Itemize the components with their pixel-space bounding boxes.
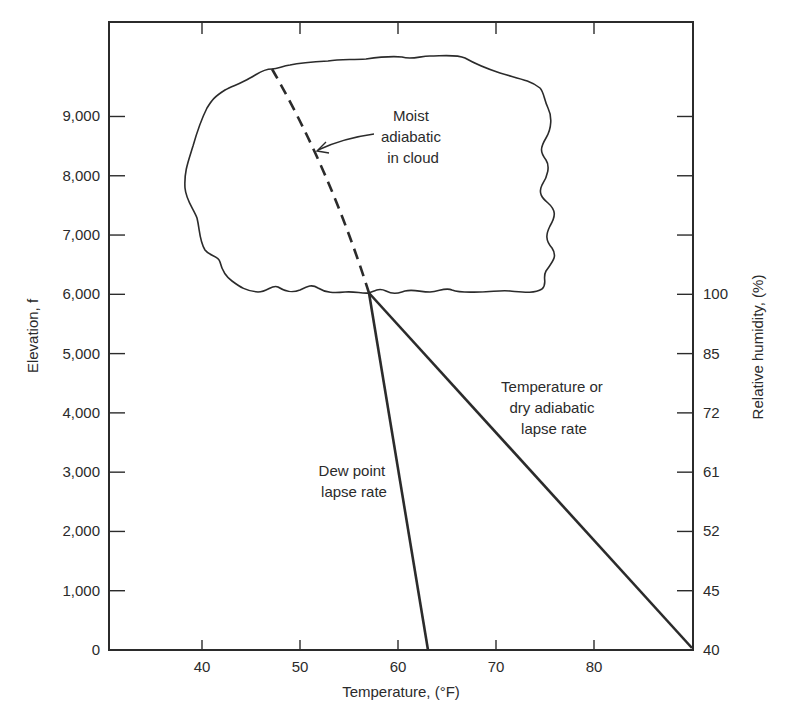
y2-tick-label: 61 — [703, 463, 720, 480]
y-tick-label: 0 — [92, 641, 100, 658]
lapse-rate-chart: 4050607080 01,0002,0003,0004,0005,0006,0… — [0, 0, 788, 725]
y-tick-label: 8,000 — [62, 167, 100, 184]
y-tick-label: 9,000 — [62, 107, 100, 124]
y-tick-label: 2,000 — [62, 522, 100, 539]
x-tick-label: 50 — [292, 658, 309, 675]
y-tick-label: 6,000 — [62, 285, 100, 302]
dew-point-label: Dew point lapse rate — [319, 462, 390, 500]
y2-axis-title: Relative humidity, (%) — [749, 275, 766, 420]
y2-tick-label: 40 — [703, 641, 720, 658]
y-axis-title: Elevation, f — [24, 298, 41, 373]
dry-adiabatic-label: Temperature or dry adiabatic lapse rate — [501, 378, 607, 437]
y-tick-label: 3,000 — [62, 463, 100, 480]
moist-label: Moist adiabatic in cloud — [381, 107, 445, 166]
y2-tick-label: 72 — [703, 404, 720, 421]
y2-tick-label: 100 — [703, 285, 728, 302]
x-tick-label: 60 — [390, 658, 407, 675]
dry-adiabatic-line — [369, 293, 692, 648]
y-axis-ticks: 01,0002,0003,0004,0005,0006,0007,0008,00… — [62, 107, 125, 658]
moist-adiabatic-line — [272, 69, 369, 293]
y2-tick-label: 45 — [703, 582, 720, 599]
y2-tick-label: 85 — [703, 345, 720, 362]
x-axis-title: Temperature, (°F) — [342, 683, 460, 700]
y-tick-label: 5,000 — [62, 345, 100, 362]
x-tick-label: 40 — [194, 658, 211, 675]
x-tick-label: 70 — [488, 658, 505, 675]
y2-axis-ticks: 404552617285100 — [677, 116, 728, 658]
y-tick-label: 4,000 — [62, 404, 100, 421]
moist-annotation-arrow — [318, 134, 374, 150]
y2-tick-label: 52 — [703, 522, 720, 539]
y-tick-label: 7,000 — [62, 226, 100, 243]
cloud-shape — [185, 56, 555, 294]
x-tick-label: 80 — [586, 658, 603, 675]
y-tick-label: 1,000 — [62, 582, 100, 599]
